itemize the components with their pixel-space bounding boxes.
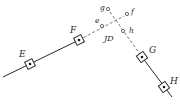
label-f: f bbox=[130, 7, 135, 16]
label-G: G bbox=[149, 45, 156, 55]
station-E bbox=[25, 59, 36, 70]
label-g: g bbox=[100, 3, 105, 12]
label-E: E bbox=[18, 49, 26, 59]
label-e: e bbox=[95, 16, 100, 25]
dashed-extension-left bbox=[79, 16, 124, 40]
diagram-canvas: E F G H e f g h JD bbox=[0, 0, 180, 110]
station-G bbox=[136, 51, 147, 62]
point-h bbox=[121, 29, 124, 32]
label-intersection-JD: JD bbox=[102, 34, 114, 43]
station-F bbox=[74, 35, 85, 46]
label-F: F bbox=[69, 25, 77, 35]
line-segment-right bbox=[142, 57, 172, 97]
label-H: H bbox=[169, 76, 178, 86]
point-e bbox=[100, 24, 103, 27]
point-f bbox=[125, 12, 128, 15]
label-h: h bbox=[129, 26, 134, 35]
line-segment-left bbox=[3, 40, 79, 77]
point-g bbox=[106, 7, 109, 10]
dashed-extension-right bbox=[110, 12, 142, 57]
